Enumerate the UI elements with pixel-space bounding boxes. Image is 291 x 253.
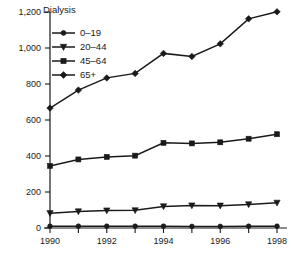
legend-label: 45–64 (80, 55, 106, 66)
chart-legend: 0–1920–4445–6465+ (52, 27, 106, 80)
marker-circle (161, 224, 166, 229)
marker-square (218, 140, 223, 145)
x-tick-label: 1994 (153, 236, 173, 246)
y-tick-label: 0 (36, 223, 41, 233)
series-line (50, 134, 277, 166)
marker-square (61, 58, 66, 63)
marker-square (133, 153, 138, 158)
y-tick-label: 600 (26, 115, 41, 125)
x-tick-label: 1996 (210, 236, 230, 246)
marker-square (246, 136, 251, 141)
y-tick-label: 800 (26, 79, 41, 89)
marker-square (161, 140, 166, 145)
legend-label: 20–44 (80, 41, 106, 52)
marker-circle (76, 224, 81, 229)
marker-square (189, 141, 194, 146)
legend-label: 65+ (80, 69, 97, 80)
marker-diamond (104, 75, 111, 82)
legend-item-1: 0–19 (52, 27, 101, 38)
marker-circle (61, 31, 66, 36)
marker-circle (275, 224, 280, 229)
legend-item-2: 20–44 (52, 41, 106, 52)
marker-circle (218, 224, 223, 229)
y-tick-label: 200 (26, 187, 41, 197)
chart-canvas: 02004006008001,0001,200 1990199219941996… (0, 0, 291, 253)
x-tick-label: 1998 (267, 236, 287, 246)
dialysis-line-chart: 02004006008001,0001,200 1990199219941996… (0, 0, 291, 253)
legend-item-4: 65+ (52, 69, 97, 80)
legend-item-3: 45–64 (52, 55, 106, 66)
series-2 (47, 200, 280, 216)
y-tick-label: 1,200 (18, 7, 41, 17)
y-tick-label: 400 (26, 151, 41, 161)
marker-diamond (189, 53, 196, 60)
marker-square (76, 157, 81, 162)
marker-square (48, 163, 53, 168)
marker-circle (104, 224, 109, 229)
x-tick-label: 1992 (97, 236, 117, 246)
x-tick-label: 1990 (40, 236, 60, 246)
marker-square (275, 132, 280, 137)
chart-title: Dialysis (43, 4, 76, 15)
marker-diamond (60, 72, 67, 79)
marker-circle (190, 224, 195, 229)
marker-circle (246, 224, 251, 229)
marker-circle (133, 224, 138, 229)
marker-square (104, 154, 109, 159)
y-tick-label: 1,000 (18, 43, 41, 53)
legend-label: 0–19 (80, 27, 101, 38)
series-3 (48, 132, 280, 169)
y-axis-ticks: 02004006008001,0001,200 (18, 7, 50, 233)
marker-diamond (274, 9, 281, 16)
x-axis-ticks: 19901992199419961998 (40, 228, 287, 246)
marker-circle (48, 224, 53, 229)
